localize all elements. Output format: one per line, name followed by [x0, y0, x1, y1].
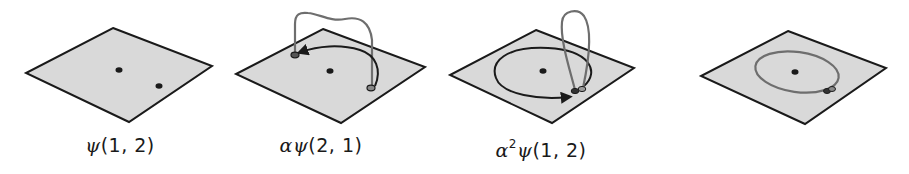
particle-2: [829, 87, 836, 92]
plane: [701, 31, 886, 124]
prefix: α: [280, 134, 293, 156]
particle-center: [116, 67, 123, 73]
plane: [26, 28, 212, 122]
particle-center: [540, 68, 547, 74]
plane: [450, 30, 634, 123]
power: 2: [509, 137, 517, 151]
particle-2: [156, 83, 163, 89]
panel-2-label: αψ(2, 1): [280, 134, 363, 156]
panel-2: [236, 13, 425, 123]
args: (1, 2): [101, 134, 155, 156]
particle-1: [571, 88, 579, 93]
psi-symbol: ψ: [293, 134, 308, 156]
particle-2: [367, 85, 375, 91]
args: (1, 2): [532, 139, 586, 161]
particle-center: [327, 68, 334, 74]
plane: [236, 29, 425, 123]
panel-1: [26, 28, 212, 122]
psi-symbol: ψ: [517, 139, 532, 161]
args: (2, 1): [308, 134, 362, 156]
panel-4: [701, 31, 886, 124]
panel-3: [450, 11, 634, 123]
particle-1: [291, 52, 299, 58]
particle-2: [578, 86, 586, 91]
prefix: α: [496, 139, 509, 161]
panel-1-label: ψ(1, 2): [85, 134, 155, 156]
psi-symbol: ψ: [85, 134, 100, 156]
particle-center: [792, 69, 799, 75]
panel-3-label: α2ψ(1, 2): [496, 139, 587, 161]
